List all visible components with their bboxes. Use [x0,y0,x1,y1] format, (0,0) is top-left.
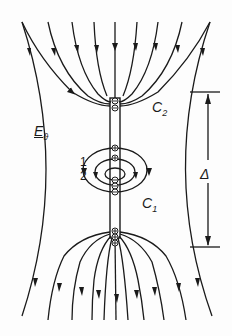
label-c2: C2 [152,100,167,118]
label-line-1: 1 [80,156,87,168]
label-gap-delta: Δ [200,165,209,183]
field-lines-svg [0,0,232,336]
label-line-2: 2 [80,170,87,182]
label-c1: C1 [142,196,157,214]
field-diagram: C2 C1 Eϑ 1 2 Δ [0,0,232,336]
label-field-e: Eϑ [34,124,48,142]
